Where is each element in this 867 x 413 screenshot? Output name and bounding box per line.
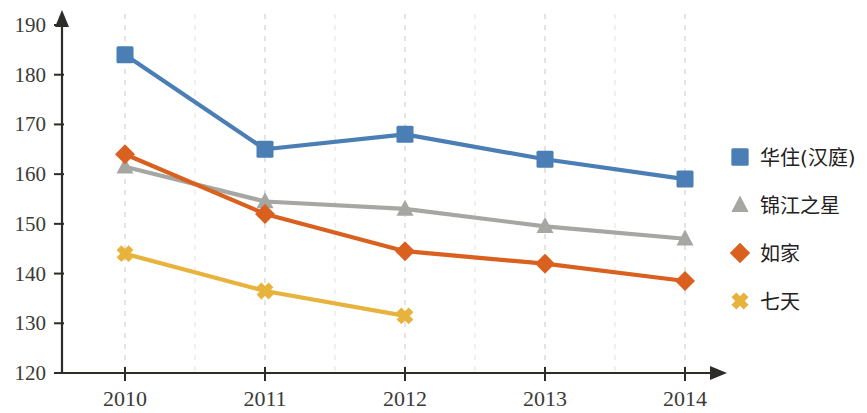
y-axis-tick-label: 190 — [15, 13, 47, 37]
data-point-marker — [117, 46, 134, 63]
triangle-marker-icon — [731, 196, 748, 212]
data-point-marker — [537, 151, 554, 168]
x-axis-arrow-icon — [710, 366, 727, 380]
series-line — [125, 154, 685, 281]
data-point-marker — [115, 144, 135, 164]
x-axis-tick-label: 2013 — [523, 386, 567, 411]
data-point-marker — [675, 271, 695, 291]
y-axis — [55, 10, 69, 373]
x-axis-tick-label: 2014 — [663, 386, 707, 411]
y-axis-ticks: 190180170160150140130120 — [15, 13, 65, 385]
legend-item-label[interactable]: 锦江之星 — [760, 194, 840, 218]
y-axis-tick-label: 170 — [15, 112, 47, 136]
chart-canvas: 190180170160150140130120 201020112012201… — [0, 0, 867, 413]
line-chart: 190180170160150140130120 201020112012201… — [0, 0, 867, 413]
cross-marker-icon — [731, 292, 748, 309]
legend-item-label[interactable]: 华住(汉庭) — [760, 146, 856, 170]
square-marker-icon — [731, 148, 748, 165]
y-axis-tick-label: 120 — [15, 361, 47, 385]
x-axis-tick-label: 2012 — [383, 386, 427, 411]
diamond-marker-icon — [730, 243, 750, 263]
y-axis-tick-label: 130 — [15, 311, 47, 335]
data-point-marker — [257, 141, 274, 158]
x-axis — [62, 366, 727, 380]
y-axis-tick-label: 180 — [15, 63, 47, 87]
data-point-marker — [535, 254, 555, 274]
legend-item-label[interactable]: 七天 — [760, 290, 800, 314]
y-axis-tick-label: 150 — [15, 212, 47, 236]
series-line — [125, 254, 405, 316]
y-axis-tick-label: 140 — [15, 262, 47, 286]
y-axis-tick-label: 160 — [15, 162, 47, 186]
data-point-marker — [395, 241, 415, 261]
x-axis-tick-label: 2011 — [243, 386, 286, 411]
data-point-marker — [677, 171, 694, 188]
x-axis-tick-label: 2010 — [103, 386, 147, 411]
chart-legend: 华住(汉庭)锦江之星如家七天 — [730, 146, 856, 314]
legend-item-label[interactable]: 如家 — [760, 242, 800, 266]
data-point-marker — [397, 126, 414, 143]
